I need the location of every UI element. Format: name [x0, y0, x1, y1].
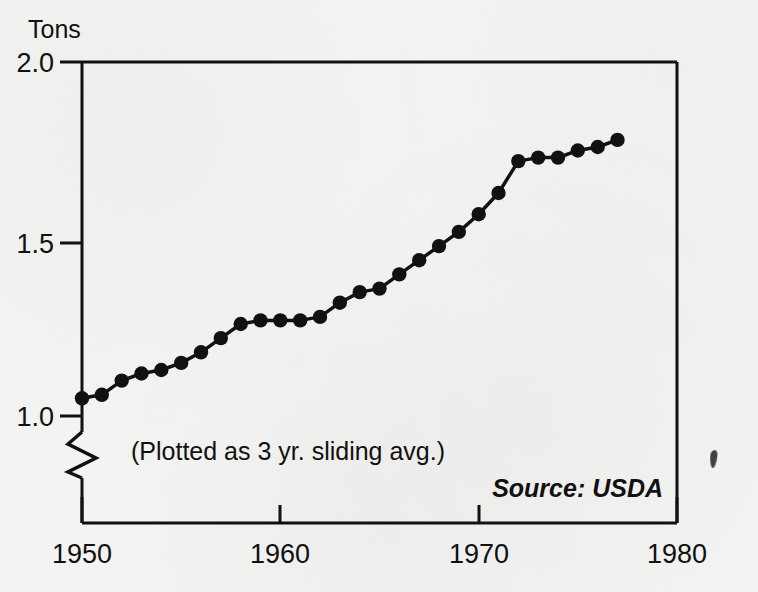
data-point-marker: [273, 313, 287, 327]
x-tick-label-1980: 1980: [647, 539, 707, 569]
data-point-marker: [531, 150, 545, 164]
data-point-marker: [194, 345, 208, 359]
data-point-marker: [214, 331, 228, 345]
data-point-marker: [610, 133, 624, 147]
y-axis-ticks: [60, 62, 82, 416]
data-point-marker: [333, 296, 347, 310]
data-point-marker: [313, 310, 327, 324]
data-point-marker: [353, 285, 367, 299]
y-tick-label-1-5: 1.5: [16, 229, 54, 259]
data-point-marker: [472, 207, 486, 221]
plot-annotation-note: (Plotted as 3 yr. sliding avg.): [131, 437, 445, 465]
chart-figure: Tons 2.0 1.5 1.0 1950 1960 1970 1980 (Pl…: [0, 0, 758, 592]
data-point-marker: [234, 317, 248, 331]
data-point-marker: [511, 154, 525, 168]
series-line-path: [82, 140, 618, 398]
line-chart-canvas: Tons 2.0 1.5 1.0 1950 1960 1970 1980 (Pl…: [0, 0, 758, 592]
data-point-marker: [372, 281, 386, 295]
data-point-marker: [452, 225, 466, 239]
x-tick-label-1970: 1970: [449, 539, 509, 569]
data-point-marker: [115, 373, 129, 387]
data-point-marker: [95, 388, 109, 402]
x-tick-label-1950: 1950: [52, 539, 112, 569]
data-point-marker: [591, 140, 605, 154]
y-tick-label-1-0: 1.0: [16, 402, 54, 432]
y-axis-break-zigzag-icon: [68, 432, 96, 478]
data-point-marker: [75, 391, 89, 405]
data-point-marker: [432, 239, 446, 253]
data-point-marker: [571, 143, 585, 157]
series-markers-group: [75, 133, 625, 406]
data-point-marker: [134, 366, 148, 380]
data-point-marker: [392, 267, 406, 281]
y-axis-title: Tons: [28, 15, 81, 43]
data-point-marker: [412, 253, 426, 267]
y-tick-label-2-0: 2.0: [16, 48, 54, 78]
data-point-marker: [174, 356, 188, 370]
data-point-marker: [491, 186, 505, 200]
data-point-marker: [253, 313, 267, 327]
data-point-marker: [154, 363, 168, 377]
x-tick-label-1960: 1960: [250, 539, 310, 569]
source-credit: Source: USDA: [492, 474, 663, 502]
data-point-marker: [293, 313, 307, 327]
data-point-marker: [551, 150, 565, 164]
